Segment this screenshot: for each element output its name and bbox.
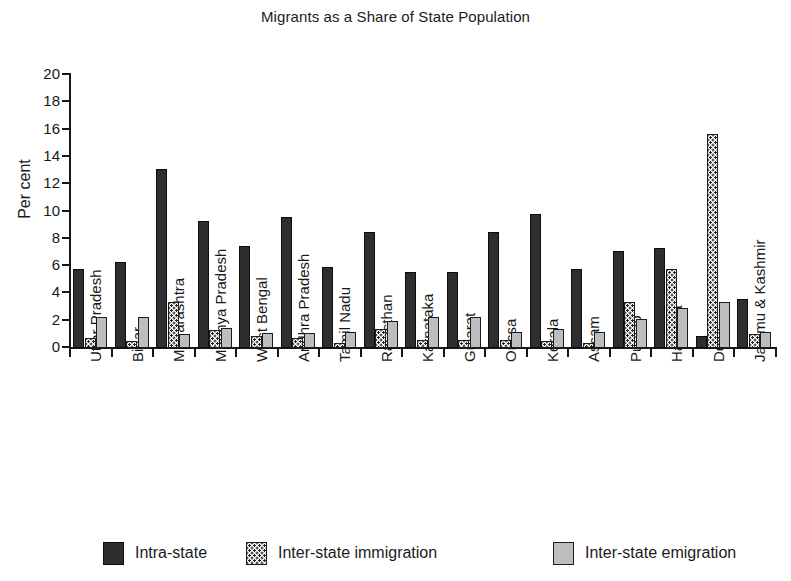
bar	[500, 340, 511, 348]
legend-item-intra-state: Intra-state	[103, 540, 207, 566]
bar	[654, 248, 665, 348]
bar-group	[405, 74, 439, 348]
bar-group	[613, 74, 647, 348]
bar	[541, 341, 552, 348]
bar-group	[364, 74, 398, 348]
bar	[488, 232, 499, 348]
y-axis-tick-label: 14	[24, 148, 60, 163]
y-axis-tick	[62, 346, 70, 348]
bar	[405, 272, 416, 348]
x-axis-tick	[360, 349, 362, 357]
x-axis-tick	[235, 349, 237, 357]
bar	[511, 332, 522, 348]
y-axis-tick	[62, 155, 70, 157]
bar	[624, 302, 635, 348]
y-axis-tick-label: 12	[24, 175, 60, 190]
bar	[666, 269, 677, 348]
bar	[126, 341, 137, 348]
bar	[594, 332, 605, 348]
bar	[96, 317, 107, 348]
bar	[209, 330, 220, 348]
y-axis-tick	[62, 100, 70, 102]
bar	[749, 334, 760, 348]
bar	[221, 328, 232, 348]
bar	[73, 269, 84, 348]
bar	[251, 336, 262, 348]
bar	[375, 329, 386, 348]
bar-group	[322, 74, 356, 348]
bar	[239, 246, 250, 348]
bar-group	[447, 74, 481, 348]
bar	[292, 338, 303, 348]
x-axis-tick	[484, 349, 486, 357]
bar-group	[281, 74, 315, 348]
plot-area	[70, 74, 776, 348]
legend-label-inter-state-emigration: Inter-state emigration	[585, 544, 736, 562]
bar	[583, 343, 594, 348]
bar	[458, 340, 469, 348]
y-axis-tick-label: 6	[24, 257, 60, 272]
y-axis-tick-label: 20	[24, 66, 60, 81]
y-axis-tick	[62, 182, 70, 184]
x-axis-tick	[650, 349, 652, 357]
x-axis-tick	[111, 349, 113, 357]
bar	[364, 232, 375, 348]
y-axis-tick	[62, 128, 70, 130]
bar-group	[571, 74, 605, 348]
bar	[613, 251, 624, 348]
legend-swatch-inter-state-emigration-icon	[553, 542, 574, 565]
x-axis-tick	[194, 349, 196, 357]
bar	[571, 269, 582, 348]
y-axis-tick-label: 10	[24, 203, 60, 218]
bar	[281, 217, 292, 348]
bar	[304, 333, 315, 348]
bar-group	[156, 74, 190, 348]
bar-group	[737, 74, 771, 348]
y-axis-tick-label: 2	[24, 312, 60, 327]
y-axis-tick-label: 0	[24, 339, 60, 354]
bar	[447, 272, 458, 348]
bar-group	[115, 74, 149, 348]
x-axis-tick	[609, 349, 611, 357]
x-axis-tick	[733, 349, 735, 357]
bar-group	[488, 74, 522, 348]
bar	[345, 332, 356, 348]
y-axis-tick	[62, 73, 70, 75]
bar	[707, 134, 718, 348]
x-axis-tick	[567, 349, 569, 357]
chart-title: Migrants as a Share of State Population	[0, 8, 791, 25]
bar-group	[239, 74, 273, 348]
bar	[115, 262, 126, 348]
bar	[760, 332, 771, 348]
x-axis-tick	[318, 349, 320, 357]
x-axis-tick	[692, 349, 694, 357]
x-axis-tick	[775, 349, 777, 357]
x-axis-tick	[69, 349, 71, 357]
bar	[179, 334, 190, 348]
bar-group	[696, 74, 730, 348]
bar	[417, 340, 428, 348]
y-axis-tick	[62, 210, 70, 212]
bar	[719, 302, 730, 348]
bar	[85, 338, 96, 348]
bar-group	[73, 74, 107, 348]
bar	[696, 336, 707, 348]
y-axis-tick	[62, 319, 70, 321]
y-axis-tick	[62, 291, 70, 293]
legend-label-inter-state-immigration: Inter-state immigration	[278, 544, 437, 562]
legend-swatch-intra-state-icon	[103, 542, 124, 565]
legend-swatch-inter-state-immigration-icon	[246, 542, 267, 565]
x-axis-tick	[526, 349, 528, 357]
legend-item-inter-state-immigration: Inter-state immigration	[246, 540, 437, 566]
bar	[168, 302, 179, 348]
x-axis-tick	[277, 349, 279, 357]
bar	[322, 267, 333, 348]
bar	[553, 329, 564, 348]
legend-item-inter-state-emigration: Inter-state emigration	[553, 540, 736, 566]
y-axis-tick-label: 18	[24, 93, 60, 108]
bar	[198, 221, 209, 348]
bar	[138, 317, 149, 348]
chart-legend: Intra-state Inter-state immigration Inte…	[0, 540, 791, 574]
bar	[737, 299, 748, 348]
bar-group	[198, 74, 232, 348]
